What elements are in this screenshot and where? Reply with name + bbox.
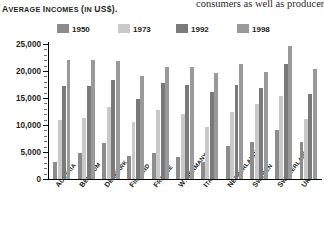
bar-italy-1998: [214, 73, 218, 179]
bar-belgium-1950: [78, 153, 82, 179]
y-tick-minor: [44, 49, 47, 50]
y-tick-minor: [44, 55, 47, 56]
y-tick-major-5000: [43, 152, 48, 153]
bar-finland-1998: [140, 76, 144, 179]
bar-belgium-1998: [91, 60, 95, 179]
bar-italy-1950: [201, 162, 205, 179]
bar-finland-1973: [132, 122, 136, 179]
bar-netherlands-1973: [230, 112, 234, 179]
bar-denmark-1992: [111, 80, 115, 179]
bar-w-germany-1992: [185, 85, 189, 180]
bar-w-germany-1973: [181, 114, 185, 179]
bar-uk-1973: [304, 119, 308, 179]
y-tick-minor: [44, 76, 47, 77]
bar-denmark-1973: [107, 107, 111, 179]
bar-uk-1992: [308, 94, 312, 179]
y-tick-minor: [44, 109, 47, 110]
y-tick-minor: [44, 130, 47, 131]
bar-france-1973: [156, 110, 160, 179]
bar-w-germany-1998: [190, 67, 194, 179]
bar-finland-1992: [136, 99, 140, 179]
bar-france-1992: [161, 83, 165, 179]
bar-finland-1950: [127, 156, 131, 179]
bar-netherlands-1992: [235, 85, 239, 179]
bar-austria-1973: [58, 120, 62, 179]
bar-belgium-1973: [82, 118, 86, 179]
bar-switzerland-1950: [275, 130, 279, 179]
bar-sweden-1973: [255, 104, 259, 179]
bar-sweden-1950: [250, 142, 254, 179]
bar-italy-1992: [210, 92, 214, 179]
bar-netherlands-1998: [239, 64, 243, 179]
bar-austria-1950: [53, 162, 57, 179]
bar-austria-1992: [62, 86, 66, 179]
y-tick-minor: [44, 163, 47, 164]
bar-sweden-1992: [259, 88, 263, 179]
y-tick-minor: [44, 87, 47, 88]
y-tick-major-10000: [43, 125, 48, 126]
bar-uk-1998: [313, 69, 317, 179]
bar-w-germany-1950: [176, 157, 180, 179]
y-tick-minor: [44, 147, 47, 148]
y-tick-minor: [44, 136, 47, 137]
y-tick-minor: [44, 103, 47, 104]
bar-switzerland-1998: [288, 46, 292, 179]
y-tick-minor: [44, 66, 47, 67]
y-tick-major-15000: [43, 98, 48, 99]
bar-france-1998: [165, 67, 169, 179]
chart-figure: consumers as well as producers AVERAGE I…: [0, 0, 324, 231]
bar-netherlands-1950: [226, 146, 230, 179]
bar-france-1950: [152, 153, 156, 179]
bar-sweden-1998: [264, 72, 268, 179]
y-tick-minor: [44, 168, 47, 169]
y-tick-minor: [44, 82, 47, 83]
y-tick-minor: [44, 60, 47, 61]
y-tick-minor: [44, 93, 47, 94]
y-tick-major-25000: [43, 44, 48, 45]
bar-belgium-1992: [87, 86, 91, 179]
bar-denmark-1950: [102, 143, 106, 179]
bar-italy-1973: [205, 127, 209, 179]
y-tick-minor: [44, 141, 47, 142]
bar-uk-1950: [300, 142, 304, 179]
bar-switzerland-1992: [284, 64, 288, 179]
bar-austria-1998: [67, 60, 71, 179]
y-tick-major-20000: [43, 71, 48, 72]
y-tick-major-0: [43, 179, 48, 180]
y-tick-minor: [44, 174, 47, 175]
y-tick-minor: [44, 114, 47, 115]
y-tick-minor: [44, 120, 47, 121]
y-tick-minor: [44, 157, 47, 158]
bar-denmark-1998: [116, 61, 120, 179]
bar-switzerland-1973: [279, 96, 283, 179]
